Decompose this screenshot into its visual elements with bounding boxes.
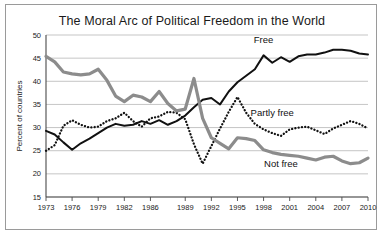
x-tick-label: 1998	[255, 203, 272, 212]
y-tick-label: 35	[33, 100, 41, 109]
x-tick-label: 1976	[64, 203, 81, 212]
x-tick-label: 2004	[307, 203, 324, 212]
y-tick-label: 15	[33, 193, 41, 202]
x-tick-label: 1982	[116, 203, 133, 212]
series-label-not-free: Not free	[264, 158, 298, 169]
chart-frame: The Moral Arc of Political Freedom in th…	[5, 4, 377, 230]
series-label-partly-free: Partly free	[251, 107, 294, 118]
x-tick-label: 2001	[281, 203, 298, 212]
x-tick-label: 1995	[229, 203, 246, 212]
x-tick-label: 1989	[177, 203, 194, 212]
x-tick-label: 1986	[142, 203, 159, 212]
gridlines	[46, 35, 368, 197]
axis-lines	[46, 35, 368, 197]
series-line-free	[46, 50, 368, 150]
x-tick-label: 2007	[334, 203, 351, 212]
x-tick-label: 1979	[90, 203, 107, 212]
x-tick-label: 1992	[203, 203, 220, 212]
y-axis-tick-labels: 1520253035404550	[33, 31, 41, 202]
x-axis-ticks	[46, 197, 368, 201]
data-series	[46, 50, 368, 164]
x-tick-label: 1973	[38, 203, 55, 212]
x-axis-tick-labels: 1973197619791982198619891992199519982001…	[38, 203, 377, 212]
y-tick-label: 30	[33, 123, 41, 132]
series-labels: FreePartly freeNot free	[251, 34, 298, 169]
y-tick-label: 50	[33, 31, 41, 40]
y-tick-label: 20	[33, 169, 41, 178]
y-tick-label: 40	[33, 77, 41, 86]
series-label-free: Free	[254, 34, 274, 45]
series-line-not-free	[46, 56, 368, 163]
y-axis-title: Percent of countries	[15, 80, 24, 151]
y-tick-label: 25	[33, 146, 41, 155]
x-tick-label: 2010	[360, 203, 377, 212]
line-chart-plot: 1520253035404550 19731976197919821986198…	[6, 5, 378, 231]
y-tick-label: 45	[33, 54, 41, 63]
y-axis-label-text: Percent of countries	[15, 80, 24, 151]
